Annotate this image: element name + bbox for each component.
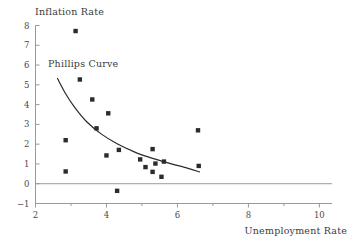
y-axis-tick-label: 6 <box>24 60 29 70</box>
scatter-points <box>63 29 200 193</box>
y-axis-tick-label: 7 <box>24 40 29 50</box>
x-axis-tick-label: 10 <box>314 210 325 220</box>
scatter-point <box>73 29 77 33</box>
scatter-point <box>143 165 147 169</box>
x-axis-tick-label: 8 <box>246 210 251 220</box>
y-axis-tick-label: 5 <box>24 80 29 90</box>
y-axis-tick-label: 1 <box>24 159 29 169</box>
scatter-point <box>138 157 142 161</box>
scatter-point <box>104 153 108 157</box>
scatter-point <box>159 175 163 179</box>
x-axis-title: Unemployment Rate <box>245 225 347 236</box>
scatter-point <box>94 126 98 130</box>
scatter-point <box>150 170 154 174</box>
scatter-point <box>106 111 110 115</box>
scatter-point <box>196 128 200 132</box>
y-axis: −1012345678 <box>17 21 40 209</box>
x-axis-tick-label: 4 <box>104 210 109 220</box>
x-axis: 246810 <box>33 204 332 220</box>
scatter-point <box>150 147 154 151</box>
x-axis-tick-label: 2 <box>33 210 38 220</box>
y-axis-tick-label: 3 <box>24 119 29 129</box>
y-axis-tick-label: −1 <box>17 199 30 209</box>
plot-area: −1012345678 246810 <box>0 0 353 239</box>
y-axis-tick-label: 2 <box>24 139 29 149</box>
scatter-point <box>153 161 157 165</box>
scatter-point <box>90 97 94 101</box>
scatter-point <box>197 164 201 168</box>
scatter-point <box>78 77 82 81</box>
scatter-point <box>63 169 67 173</box>
scatter-point <box>63 138 67 142</box>
y-axis-tick-label: 4 <box>24 100 29 110</box>
phillips-curve-path <box>58 79 200 172</box>
y-axis-tick-label: 0 <box>24 179 29 189</box>
scatter-point <box>117 148 121 152</box>
phillips-curve-chart: Inflation Rate Phillips Curve −101234567… <box>0 0 353 239</box>
y-axis-tick-label: 8 <box>24 21 29 31</box>
phillips-curve-line <box>58 79 200 172</box>
scatter-point <box>162 159 166 163</box>
scatter-point <box>115 189 119 193</box>
x-axis-tick-label: 6 <box>175 210 180 220</box>
